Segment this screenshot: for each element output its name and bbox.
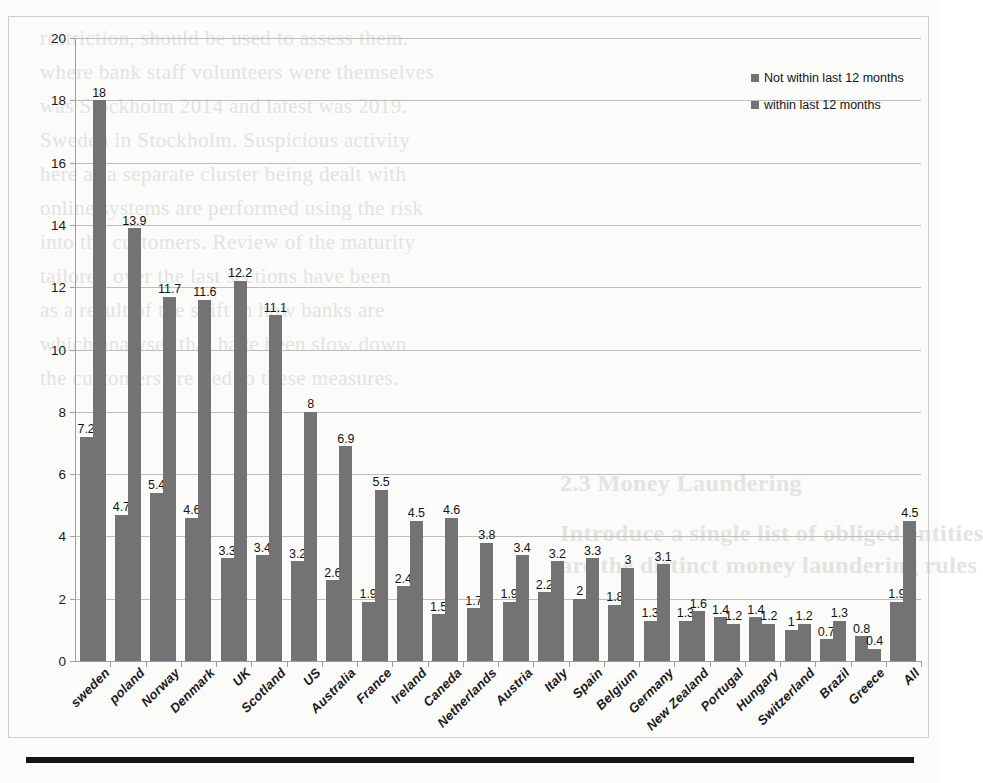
bar-group: 1.83 xyxy=(608,38,634,661)
bar: 1.4 xyxy=(714,617,727,661)
bar-value-label: 1.2 xyxy=(795,610,812,623)
bar-group: 1.94.5 xyxy=(890,38,916,661)
bar: 3.4 xyxy=(256,555,269,661)
bar-value-label: 1.2 xyxy=(760,610,777,623)
x-axis-label-italy: Italy xyxy=(541,665,571,695)
bar: 1.6 xyxy=(692,611,705,661)
bar: 3.1 xyxy=(657,564,670,661)
chart-frame: 02468101214161820 7.2184.713.95.411.74.6… xyxy=(8,16,929,738)
bar-value-label: 11.7 xyxy=(158,283,181,296)
bar: 1.8 xyxy=(608,605,621,661)
x-axis-label-all: All xyxy=(900,665,923,688)
bar-group: 4.611.6 xyxy=(185,38,211,661)
bar: 8 xyxy=(304,412,317,661)
bar: 1.9 xyxy=(890,602,903,661)
y-axis-tick-label: 10 xyxy=(51,342,66,357)
y-axis-tick-label: 16 xyxy=(51,155,66,170)
y-axis-tick-label: 20 xyxy=(51,31,66,46)
bar-group: 23.3 xyxy=(573,38,599,661)
bar: 0.4 xyxy=(868,649,881,661)
bar-group: 2.44.5 xyxy=(397,38,423,661)
bar-group: 1.33.1 xyxy=(644,38,670,661)
y-axis-tick-label: 18 xyxy=(51,93,66,108)
bar-group: 1.31.6 xyxy=(679,38,705,661)
bar: 3 xyxy=(621,568,634,661)
bar-value-label: 3 xyxy=(624,554,631,567)
bar-group: 1.41.2 xyxy=(749,38,775,661)
x-axis-tick-mark xyxy=(921,661,922,667)
plot-area: 02468101214161820 7.2184.713.95.411.74.6… xyxy=(75,38,921,661)
bar: 5.4 xyxy=(150,493,163,661)
y-axis-tick-label: 14 xyxy=(51,217,66,232)
bar-group: 0.80.4 xyxy=(855,38,881,661)
bar: 3.2 xyxy=(551,561,564,661)
bar: 12.2 xyxy=(234,281,247,661)
x-axis-label-austria: Austria xyxy=(492,665,535,708)
bar-value-label: 3.8 xyxy=(478,529,495,542)
bar: 2.4 xyxy=(397,586,410,661)
x-axis-label-france: France xyxy=(353,665,395,707)
bar-group: 3.312.2 xyxy=(221,38,247,661)
bar-group: 2.23.2 xyxy=(538,38,564,661)
bar-value-label: 8 xyxy=(307,398,314,411)
bar: 6.9 xyxy=(339,446,352,661)
bar-group: 7.218 xyxy=(80,38,106,661)
bar-value-label: 3.1 xyxy=(654,551,671,564)
bar-value-label: 4.5 xyxy=(408,507,425,520)
bar-group: 1.73.8 xyxy=(467,38,493,661)
bar: 1.5 xyxy=(432,614,445,661)
bar-value-label: 3.2 xyxy=(549,548,566,561)
y-axis-tick-label: 4 xyxy=(58,529,66,544)
bar: 1.3 xyxy=(644,621,657,661)
bar: 1.4 xyxy=(749,617,762,661)
legend-label: within last 12 months xyxy=(764,99,881,112)
bar: 1.2 xyxy=(798,624,811,661)
bar-value-label: 13.9 xyxy=(122,215,146,228)
bar-value-label: 11.6 xyxy=(193,286,216,299)
bar-value-label: 1 xyxy=(788,616,795,629)
bar: 4.6 xyxy=(445,518,458,661)
legend-label: Not within last 12 months xyxy=(764,72,904,85)
bar-group: 1.41.2 xyxy=(714,38,740,661)
y-axis-tick-label: 6 xyxy=(58,467,66,482)
bar-group: 1.95.5 xyxy=(362,38,388,661)
legend-item[interactable]: within last 12 months xyxy=(751,99,904,112)
y-axis-tick-label: 2 xyxy=(58,591,66,606)
bar-value-label: 1.2 xyxy=(725,610,742,623)
bar: 1.7 xyxy=(467,608,480,661)
bar-value-label: 12.2 xyxy=(228,267,252,280)
bar: 1 xyxy=(785,630,798,661)
bar: 7.2 xyxy=(80,437,93,661)
bar-value-label: 0.4 xyxy=(866,635,883,648)
bar-group: 4.713.9 xyxy=(115,38,141,661)
bar: 1.3 xyxy=(833,621,846,661)
bar-group: 1.54.6 xyxy=(432,38,458,661)
bar: 3.3 xyxy=(221,558,234,661)
chart-legend: Not within last 12 monthswithin last 12 … xyxy=(751,72,904,125)
legend-swatch-icon xyxy=(751,101,759,109)
legend-item[interactable]: Not within last 12 months xyxy=(751,72,904,85)
y-axis-tick-label: 8 xyxy=(58,404,66,419)
bar-value-label: 1.3 xyxy=(831,607,848,620)
bar-group: 3.28 xyxy=(291,38,317,661)
bar-value-label: 2 xyxy=(576,585,583,598)
bar: 3.3 xyxy=(586,558,599,661)
bar-value-label: 6.9 xyxy=(337,433,354,446)
bar: 3.2 xyxy=(291,561,304,661)
bar: 1.2 xyxy=(727,624,740,661)
bar: 3.8 xyxy=(480,543,493,661)
bar: 2.6 xyxy=(326,580,339,661)
bar: 2 xyxy=(573,599,586,661)
bar: 1.3 xyxy=(679,621,692,661)
bar-value-label: 3.4 xyxy=(513,542,530,555)
bar-value-label: 4.6 xyxy=(443,504,460,517)
bar-value-label: 1.6 xyxy=(690,598,707,611)
bar-value-label: 11.1 xyxy=(264,302,287,315)
x-axis-label-greece: Greece xyxy=(845,665,888,708)
bar-value-label: 4.5 xyxy=(901,507,918,520)
legend-swatch-icon xyxy=(751,74,759,82)
y-axis-tick-label: 12 xyxy=(51,280,66,295)
x-axis-label-us: US xyxy=(300,665,324,689)
bar-group: 3.411.1 xyxy=(256,38,282,661)
